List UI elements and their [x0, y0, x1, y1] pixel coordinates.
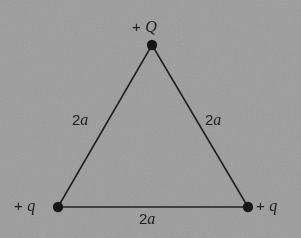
right-side-length-symbol: a	[213, 111, 221, 128]
apex-charge-dot	[147, 40, 157, 50]
right-side-line	[152, 45, 248, 207]
physics-diagram-figure: + Q + q + q 2a 2a 2a	[0, 0, 301, 238]
bottom-right-charge-dot	[243, 202, 253, 212]
bottom-right-charge-symbol: q	[269, 197, 277, 214]
apex-charge-label: + Q	[132, 19, 157, 35]
bottom-left-charge-sign: +	[14, 197, 23, 214]
bottom-right-charge-sign: +	[256, 197, 265, 214]
right-side-length-label: 2a	[205, 112, 221, 128]
base-length-symbol: a	[147, 210, 155, 227]
base-length-label: 2a	[139, 211, 155, 227]
left-side-length-label: 2a	[72, 112, 88, 128]
bottom-left-charge-dot	[53, 202, 63, 212]
bottom-left-charge-symbol: q	[27, 197, 35, 214]
left-side-length-symbol: a	[80, 111, 88, 128]
apex-charge-sign: +	[132, 18, 141, 35]
apex-charge-symbol: Q	[145, 18, 157, 35]
bottom-right-charge-label: + q	[256, 198, 278, 214]
bottom-left-charge-label: + q	[14, 198, 36, 214]
